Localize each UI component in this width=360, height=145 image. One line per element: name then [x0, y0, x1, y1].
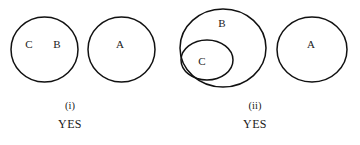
set-label-c-diagram-ii: C — [198, 55, 205, 67]
venn-diagram-figure: C B A (i) YES B C A (ii) YES — [0, 0, 360, 145]
caption-answer-diagram-i: YES — [58, 117, 82, 131]
venn-diagram-canvas: C B A (i) YES B C A (ii) YES — [0, 0, 360, 145]
set-label-b-diagram-ii: B — [218, 17, 225, 29]
caption-answer-diagram-ii: YES — [243, 117, 267, 131]
set-label-a-diagram-ii: A — [307, 38, 315, 50]
diagram-ii-group: B C A (ii) YES — [180, 9, 347, 131]
caption-index-diagram-i: (i) — [65, 100, 75, 112]
set-label-a-diagram-i: A — [116, 38, 124, 50]
set-label-b-diagram-i: B — [53, 38, 60, 50]
set-label-c-diagram-i: C — [25, 38, 32, 50]
diagram-i-group: C B A (i) YES — [11, 17, 155, 131]
circle-c-inner-diagram-ii — [181, 40, 233, 80]
circle-cb — [11, 17, 78, 82]
caption-index-diagram-ii: (ii) — [249, 100, 262, 112]
